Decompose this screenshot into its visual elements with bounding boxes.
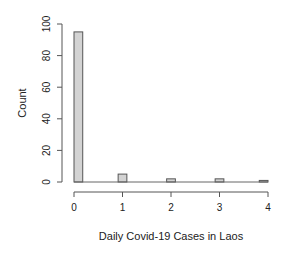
x-tick-label: 0: [71, 202, 77, 213]
y-tick-label: 0: [41, 179, 52, 185]
x-tick-label: 4: [265, 202, 271, 213]
y-tick-label: 20: [41, 144, 52, 156]
y-axis: 020406080100: [41, 15, 62, 185]
x-tick-label: 3: [217, 202, 223, 213]
y-tick-label: 100: [41, 15, 52, 32]
histogram-bar: [74, 32, 83, 182]
x-axis-label: Daily Covid-19 Cases in Laos: [99, 230, 244, 242]
y-tick-label: 40: [41, 113, 52, 125]
histogram-bar: [118, 174, 127, 182]
y-axis-label: Count: [16, 88, 28, 117]
y-tick-label: 80: [41, 50, 52, 62]
bars: [74, 32, 268, 182]
x-axis: 01234: [71, 192, 271, 213]
y-tick-label: 60: [41, 81, 52, 93]
x-tick-label: 2: [168, 202, 174, 213]
x-tick-label: 1: [120, 202, 126, 213]
histogram-chart: 020406080100 01234 Count Daily Covid-19 …: [0, 0, 286, 256]
